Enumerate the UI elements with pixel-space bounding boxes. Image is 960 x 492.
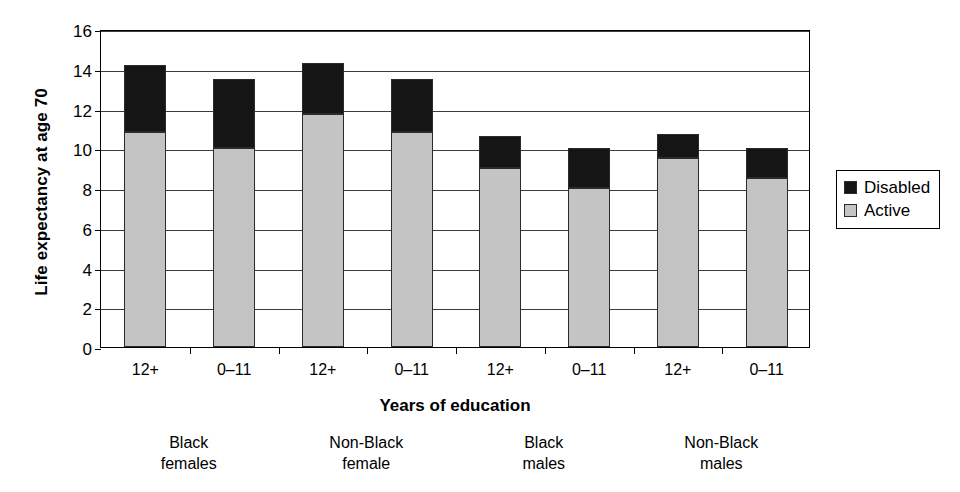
y-axis-tick-mark (95, 349, 101, 350)
group-label-line: Black (114, 432, 264, 453)
legend-item-disabled: Disabled (844, 176, 930, 199)
bar-segment-active (657, 158, 699, 347)
bar-segment-disabled (479, 136, 521, 168)
gridline (101, 111, 809, 112)
group-label-line: males (646, 453, 796, 474)
bar-segment-disabled (391, 79, 433, 133)
bar-segment-disabled (746, 148, 788, 178)
gridline (101, 230, 809, 231)
group-label-line: Non-Black (646, 432, 796, 453)
y-axis-tick-label: 16 (48, 23, 92, 40)
bar-segment-active (391, 132, 433, 347)
y-axis-tick-label: 10 (48, 142, 92, 159)
bar-segment-disabled (657, 134, 699, 158)
y-axis-tick-label: 14 (48, 62, 92, 79)
gridline (101, 31, 809, 32)
group-label: Blackmales (469, 432, 619, 474)
group-label-line: Non-Black (291, 432, 441, 453)
y-axis-tick-label: 4 (48, 261, 92, 278)
bar-segment-active (479, 168, 521, 347)
x-axis-tick-label: 0–11 (722, 361, 812, 379)
legend-label: Disabled (864, 179, 930, 196)
bar-segment-active (124, 132, 166, 347)
x-axis-tick-label: 12+ (633, 361, 723, 379)
x-axis-title: Years of education (100, 396, 810, 416)
group-label-line: females (114, 453, 264, 474)
gridline (101, 190, 809, 191)
chart-figure: Life expectancy at age 70 02468101214161… (0, 0, 960, 492)
x-axis-tick-mark (190, 347, 191, 354)
y-axis-tick-mark (95, 71, 101, 72)
gridline (101, 71, 809, 72)
bar-segment-active (213, 148, 255, 347)
bar-segment-disabled (302, 63, 344, 115)
bar-segment-disabled (124, 65, 166, 133)
gridline (101, 309, 809, 310)
y-axis-tick-mark (95, 31, 101, 32)
gridline (101, 150, 809, 151)
bar-segment-active (302, 114, 344, 347)
x-axis-tick-mark (545, 347, 546, 354)
legend-item-active: Active (844, 199, 930, 222)
x-axis-tick-mark (456, 347, 457, 354)
group-label: Non-Blackmales (646, 432, 796, 474)
x-axis-tick-label: 12+ (100, 361, 190, 379)
y-axis-tick-label: 12 (48, 102, 92, 119)
chart-legend: Disabled Active (836, 170, 940, 229)
bar-segment-active (746, 178, 788, 347)
x-axis-tick-mark (279, 347, 280, 354)
x-axis-tick-mark (722, 347, 723, 354)
y-axis-tick-mark (95, 111, 101, 112)
x-axis-tick-mark (634, 347, 635, 354)
group-label: Blackfemales (114, 432, 264, 474)
group-label-line: female (291, 453, 441, 474)
gray-square-swatch-icon (844, 204, 857, 217)
y-axis-tick-mark (95, 270, 101, 271)
y-axis-tick-mark (95, 190, 101, 191)
group-label-line: males (469, 453, 619, 474)
group-label: Non-Blackfemale (291, 432, 441, 474)
x-axis-tick-mark (367, 347, 368, 354)
y-axis-tick-label: 6 (48, 221, 92, 238)
y-axis-tick-label: 8 (48, 182, 92, 199)
y-axis-tick-mark (95, 309, 101, 310)
y-axis-tick-label: 2 (48, 301, 92, 318)
plot-area: 024681012141612+0–1112+0–1112+0–1112+0–1… (100, 30, 810, 348)
group-label-line: Black (469, 432, 619, 453)
bar-segment-disabled (213, 79, 255, 149)
bar-segment-active (568, 188, 610, 347)
x-axis-tick-label: 0–11 (367, 361, 457, 379)
x-axis-tick-label: 0–11 (189, 361, 279, 379)
x-axis-tick-label: 12+ (455, 361, 545, 379)
black-square-swatch-icon (844, 181, 857, 194)
legend-label: Active (864, 202, 910, 219)
x-axis-tick-label: 0–11 (544, 361, 634, 379)
y-axis-tick-label: 0 (48, 341, 92, 358)
bar-segment-disabled (568, 148, 610, 188)
gridline (101, 270, 809, 271)
y-axis-tick-mark (95, 230, 101, 231)
x-axis-tick-label: 12+ (278, 361, 368, 379)
y-axis-tick-mark (95, 150, 101, 151)
